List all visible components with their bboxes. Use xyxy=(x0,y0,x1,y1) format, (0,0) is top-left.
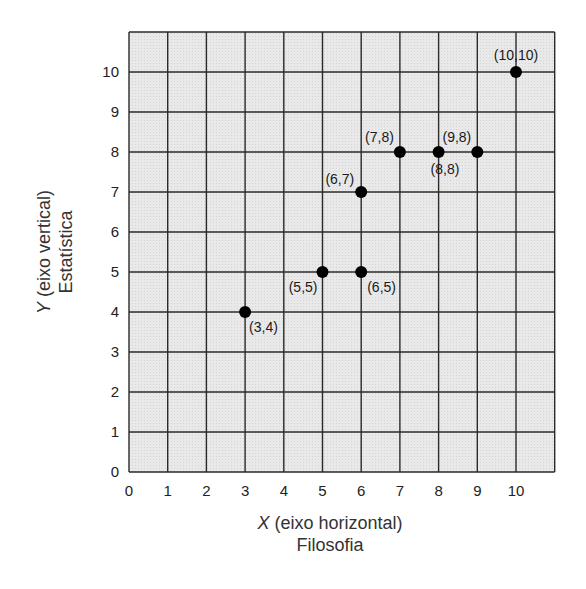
x-tick-label: 2 xyxy=(202,482,210,499)
x-axis-variable: X xyxy=(257,513,269,533)
x-tick-label: 8 xyxy=(434,482,442,499)
point-label: (8,8) xyxy=(431,161,460,177)
x-tick-label: 0 xyxy=(125,482,133,499)
y-axis-description: (eixo vertical) xyxy=(34,190,54,302)
point-marker xyxy=(355,186,367,198)
y-tick-label: 2 xyxy=(111,383,119,400)
point-label: (10,10) xyxy=(494,47,538,63)
x-tick-label: 6 xyxy=(357,482,365,499)
scatter-chart: 012345678910 012345678910 (3,4)(5,5)(6,5… xyxy=(0,0,586,589)
y-axis-ticks: 012345678910 xyxy=(102,63,119,480)
y-tick-label: 4 xyxy=(111,303,119,320)
x-axis-description: (eixo horizontal) xyxy=(269,513,402,533)
plot-background xyxy=(129,32,555,472)
y-tick-label: 6 xyxy=(111,223,119,240)
y-axis-variable: Y xyxy=(34,302,54,314)
x-tick-label: 9 xyxy=(473,482,481,499)
y-tick-label: 1 xyxy=(111,423,119,440)
plot-area xyxy=(129,32,555,472)
y-tick-label: 9 xyxy=(111,103,119,120)
y-tick-label: 8 xyxy=(111,143,119,160)
point-marker xyxy=(433,146,445,158)
x-axis-title: X (eixo horizontal) Filosofia xyxy=(190,512,470,556)
y-axis-title: Y (eixo vertical) Estatística xyxy=(33,137,77,367)
x-axis-ticks: 012345678910 xyxy=(125,482,525,499)
y-tick-label: 7 xyxy=(111,183,119,200)
y-tick-label: 10 xyxy=(102,63,119,80)
point-marker xyxy=(317,266,329,278)
x-tick-label: 4 xyxy=(280,482,288,499)
x-tick-label: 3 xyxy=(241,482,249,499)
y-tick-label: 0 xyxy=(111,463,119,480)
point-marker xyxy=(510,66,522,78)
point-label: (6,7) xyxy=(325,171,354,187)
point-marker xyxy=(239,306,251,318)
y-tick-label: 5 xyxy=(111,263,119,280)
point-label: (9,8) xyxy=(443,129,472,145)
x-tick-label: 5 xyxy=(318,482,326,499)
point-label: (6,5) xyxy=(367,279,396,295)
x-tick-label: 1 xyxy=(164,482,172,499)
point-label: (5,5) xyxy=(289,279,318,295)
point-label: (7,8) xyxy=(365,129,394,145)
point-marker xyxy=(394,146,406,158)
point-marker xyxy=(355,266,367,278)
point-label: (3,4) xyxy=(249,319,278,335)
y-tick-label: 3 xyxy=(111,343,119,360)
x-tick-label: 10 xyxy=(508,482,525,499)
point-marker xyxy=(471,146,483,158)
y-axis-subject: Estatística xyxy=(55,137,77,367)
x-axis-subject: Filosofia xyxy=(190,534,470,556)
x-tick-label: 7 xyxy=(396,482,404,499)
